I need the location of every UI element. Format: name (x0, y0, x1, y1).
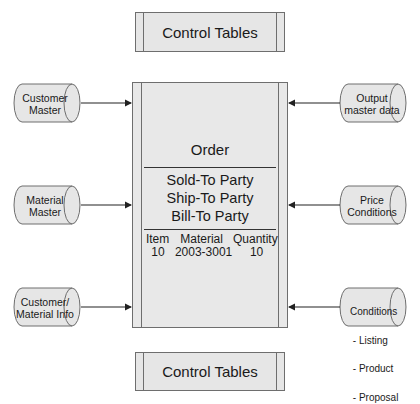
order-right-bar (278, 83, 287, 327)
control-tables-top-left-bar (136, 13, 144, 51)
order-box: Order Sold-To Party Ship-To Party Bill-T… (132, 82, 288, 328)
order-items-table: Item Material Quantity 10 2003-3001 10 (145, 233, 277, 259)
label-line: - Product (350, 364, 404, 374)
label-line: Price (342, 194, 402, 206)
label-customer-master: Customer Master (16, 92, 74, 116)
control-tables-bottom: Control Tables (135, 352, 285, 391)
label-line: Output (342, 92, 402, 104)
label-line: master data (342, 104, 402, 116)
label-output-master-data: Output master data (342, 92, 402, 116)
order-parties: Sold-To Party Ship-To Party Bill-To Part… (142, 171, 278, 225)
label-line: Conditions (342, 206, 402, 218)
control-tables-bottom-right-bar (276, 353, 284, 390)
cell-quantity: 10 (236, 246, 277, 259)
control-tables-top: Control Tables (135, 12, 285, 52)
label-line: - Proposal (350, 393, 404, 403)
label-line: Material (16, 194, 74, 206)
control-tables-top-label: Control Tables (162, 24, 258, 41)
order-title: Order (142, 141, 278, 158)
cell-material: 2003-3001 (171, 246, 236, 259)
sold-to-party: Sold-To Party (142, 171, 278, 189)
order-divider-1 (144, 167, 276, 168)
label-line: Customer (16, 92, 74, 104)
label-line: Customer/ (14, 296, 76, 308)
cell-item: 10 (145, 246, 171, 259)
control-tables-bottom-left-bar (136, 353, 144, 390)
label-price-conditions: Price Conditions (342, 194, 402, 218)
order-left-bar (133, 83, 142, 327)
label-line: Material Info (14, 308, 76, 320)
order-divider-2 (144, 229, 276, 230)
label-line: Master (16, 206, 74, 218)
ship-to-party: Ship-To Party (142, 189, 278, 207)
control-tables-bottom-label: Control Tables (162, 363, 258, 380)
label-customer-material-info: Customer/ Material Info (14, 296, 76, 320)
label-line: Master (16, 104, 74, 116)
control-tables-top-right-bar (276, 13, 284, 51)
label-line: Conditions (350, 307, 404, 317)
label-conditions: Conditions - Listing - Product - Proposa… (350, 288, 404, 404)
label-line: - Listing (350, 336, 404, 346)
label-material-master: Material Master (16, 194, 74, 218)
items-data-row: 10 2003-3001 10 (145, 246, 277, 259)
bill-to-party: Bill-To Party (142, 207, 278, 225)
